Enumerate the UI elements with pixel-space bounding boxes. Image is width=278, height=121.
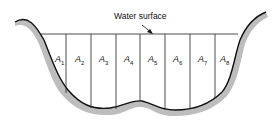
subdivision-lines <box>66 34 215 109</box>
area-label-a5: A5 <box>148 54 157 66</box>
area-label-a7: A7 <box>198 54 207 66</box>
area-label-a8: A8 <box>220 54 229 66</box>
channel-cross-section-diagram: Water surface A1 A2 A3 A4 A5 A6 A7 A8 <box>0 0 278 121</box>
area-label-a2: A2 <box>75 54 84 66</box>
water-surface-label: Water surface <box>114 11 167 21</box>
area-label-a6: A6 <box>173 54 182 66</box>
area-label-a3: A3 <box>99 54 108 66</box>
area-label-a1: A1 <box>55 54 64 66</box>
area-label-a4: A4 <box>124 54 133 66</box>
